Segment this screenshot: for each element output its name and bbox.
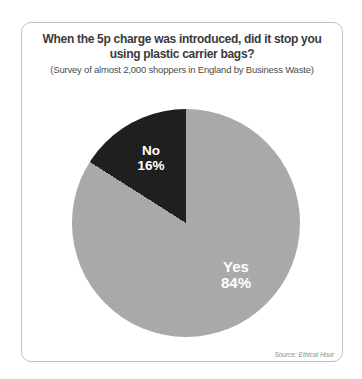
chart-subtitle: (Survey of almost 2,000 shoppers in Engl…	[27, 64, 337, 75]
screenshot-canvas: When the 5p charge was introduced, did i…	[0, 0, 362, 379]
yes-slice-percent: 84%	[221, 275, 251, 291]
yes-slice-name: Yes	[221, 259, 251, 275]
yes-slice-label: Yes 84%	[221, 259, 251, 291]
no-slice-label: No 16%	[137, 143, 164, 173]
chart-card: When the 5p charge was introduced, did i…	[21, 22, 343, 362]
source-attribution: Source: Ethical Hour	[274, 351, 334, 358]
chart-title: When the 5p charge was introduced, did i…	[31, 32, 333, 62]
no-slice-name: No	[137, 143, 164, 158]
no-slice-percent: 16%	[137, 158, 164, 173]
pie-chart: No 16% Yes 84%	[72, 109, 300, 337]
